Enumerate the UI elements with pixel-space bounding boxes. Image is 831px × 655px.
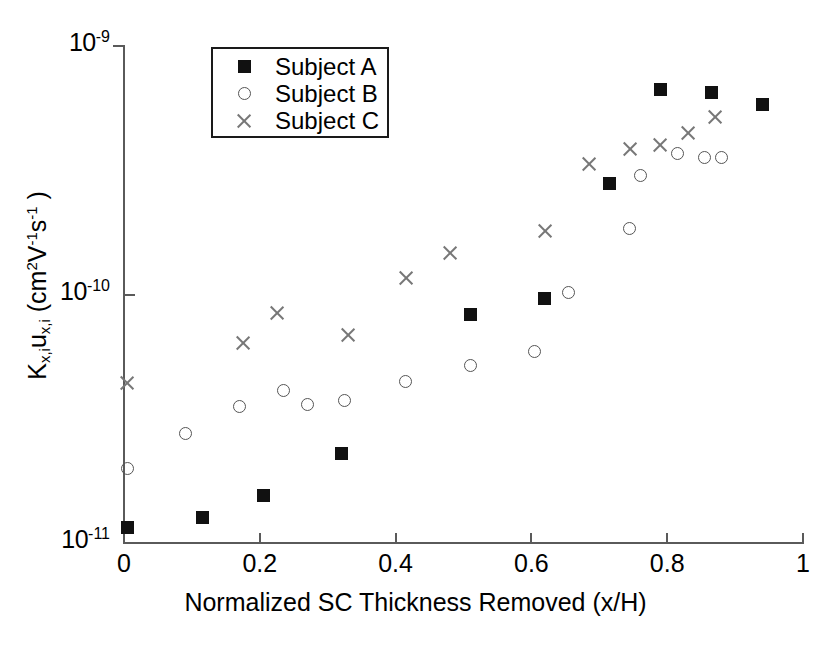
circle-marker: [715, 151, 728, 164]
y-title-k-sub: x,i: [36, 348, 53, 363]
legend-symbol: [213, 53, 275, 80]
y-tick-mantissa: 10: [61, 525, 88, 553]
x-tick-label: 1: [763, 549, 831, 578]
legend-label: Subject C: [275, 107, 379, 134]
x-tick-label: 0.2: [220, 549, 300, 578]
circle-marker: [464, 359, 477, 372]
legend-symbol: [213, 80, 275, 107]
y-tick-exponent: -10: [87, 277, 110, 294]
figure-container: 00.20.40.60.8110-910-1010-11 Normalized …: [0, 0, 831, 655]
cross-marker: [680, 125, 696, 141]
x-tick-mark: [259, 533, 261, 543]
circle-marker: [623, 222, 636, 235]
y-title-unit-s: s: [23, 220, 51, 233]
cross-marker: [119, 375, 135, 391]
x-tick-label: 0.4: [356, 549, 436, 578]
square-marker: [257, 489, 270, 502]
figure-caption: [30, 640, 810, 654]
square-marker: [538, 292, 551, 305]
square-marker: [603, 177, 616, 190]
x-tick-mark: [395, 533, 397, 543]
square-marker: [238, 60, 251, 73]
cross-marker: [442, 245, 458, 261]
legend-item-subject-a: Subject A: [213, 53, 391, 80]
y-axis-title: Kx,iux,i (cm2V-1s-1 ): [23, 35, 54, 535]
y-title-unit-close: ): [23, 191, 51, 206]
y-title-unit-open: (cm: [23, 271, 51, 320]
circle-marker: [528, 345, 541, 358]
square-marker: [654, 83, 667, 96]
legend-item-subject-c: Subject C: [213, 107, 391, 134]
y-title-unit-exp2: -1: [23, 232, 40, 245]
x-tick-mark: [802, 533, 804, 543]
circle-marker: [671, 147, 684, 160]
y-title-unit-v: V: [23, 246, 51, 263]
circle-marker: [121, 462, 134, 475]
circle-marker: [301, 398, 314, 411]
y-tick-mantissa: 10: [69, 28, 96, 56]
y-title-k: K: [23, 363, 51, 380]
cross-marker: [340, 327, 356, 343]
y-tick-mantissa: 10: [60, 277, 87, 305]
square-marker: [335, 447, 348, 460]
square-marker: [196, 511, 209, 524]
circle-marker: [277, 384, 290, 397]
y-title-u-sub: x,i: [36, 319, 53, 334]
y-title-unit-exp1: 2: [23, 262, 40, 270]
cross-marker: [707, 109, 723, 125]
circle-marker: [562, 286, 575, 299]
y-title-unit-exp3: -1: [23, 206, 40, 219]
y-tick-exponent: -11: [88, 525, 110, 542]
legend-symbol: [213, 107, 275, 134]
circle-marker: [238, 87, 251, 100]
cross-marker: [269, 305, 285, 321]
circle-marker: [698, 151, 711, 164]
y-tick-exponent: -9: [96, 28, 110, 45]
y-title-u: u: [23, 334, 51, 348]
y-tick-label: 10-9: [69, 28, 110, 57]
y-tick-mark: [125, 294, 135, 296]
square-marker: [756, 98, 769, 111]
circle-marker: [233, 400, 246, 413]
x-tick-mark: [530, 533, 532, 543]
x-tick-label: 0.8: [627, 549, 707, 578]
square-marker: [464, 308, 477, 321]
square-marker: [121, 521, 134, 534]
circle-marker: [399, 375, 412, 388]
y-tick-mark: [125, 542, 135, 544]
circle-marker: [179, 427, 192, 440]
cross-marker: [398, 270, 414, 286]
circle-marker: [634, 169, 647, 182]
cross-marker: [235, 335, 251, 351]
square-marker: [705, 86, 718, 99]
cross-marker: [235, 112, 253, 130]
y-axis-top-cap: [113, 45, 124, 47]
x-axis-line: [123, 542, 804, 544]
cross-marker: [581, 156, 597, 172]
circle-marker: [338, 394, 351, 407]
x-tick-mark: [666, 533, 668, 543]
legend-label: Subject A: [275, 53, 376, 80]
cross-marker: [652, 137, 668, 153]
x-tick-label: 0.6: [491, 549, 571, 578]
legend-label: Subject B: [275, 80, 378, 107]
legend-item-subject-b: Subject B: [213, 80, 391, 107]
x-axis-title: Normalized SC Thickness Removed (x/H): [0, 588, 831, 617]
cross-marker: [537, 223, 553, 239]
y-tick-label: 10-11: [61, 525, 110, 554]
y-tick-label: 10-10: [60, 277, 110, 306]
legend: Subject ASubject BSubject C: [211, 47, 389, 138]
cross-marker: [622, 141, 638, 157]
